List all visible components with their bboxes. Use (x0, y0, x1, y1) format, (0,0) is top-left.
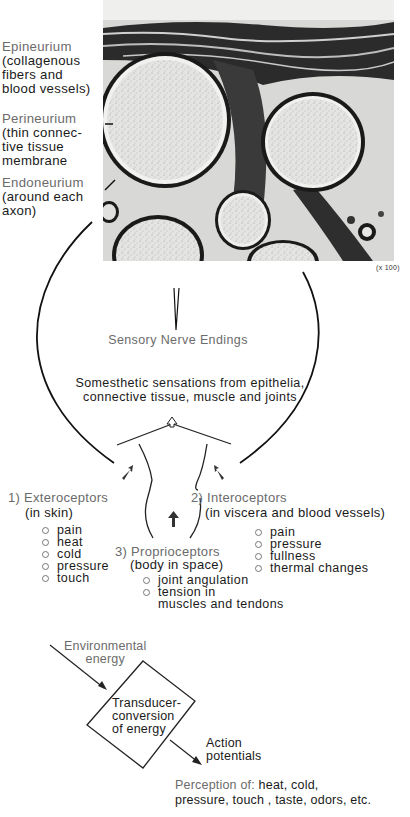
somesthetic-line-1: Somesthetic sensations from epithelia, (70, 376, 310, 390)
list-item: touch (42, 572, 109, 584)
exteroceptors-subtitle: (in skin) (8, 505, 109, 520)
interoceptors-title: 2) Interoceptors (191, 490, 385, 505)
transducer-label: Transducer- conversion of energy (112, 697, 181, 736)
perception-line-1: heat, cold, (259, 778, 319, 792)
transducer-line-3: of energy (112, 723, 181, 736)
list-item-text: muscles and tendons (158, 598, 284, 610)
arrow-proprioceptor-icon (168, 511, 179, 527)
right-arc (240, 272, 319, 463)
proprioceptors-list: joint angulation tension in muscles and … (115, 574, 284, 610)
arrow-exteroceptor-icon (122, 465, 133, 480)
nerve-ending-icon (174, 288, 179, 330)
output-line-2: potentials (206, 750, 262, 763)
output-arrowhead-icon (192, 756, 202, 765)
perception-line-2: pressure, touch , taste, odors, etc. (175, 793, 371, 808)
bullet-icon (143, 577, 150, 584)
perception-caption: Perception of: heat, cold, pressure, tou… (175, 778, 371, 808)
perception-prefix: Perception of: (175, 778, 259, 792)
list-item-text: touch (57, 572, 90, 584)
diagram-lines (0, 0, 410, 817)
bullet-icon (42, 527, 49, 534)
input-arrowhead-icon (98, 681, 107, 690)
body-outline-left (139, 444, 153, 538)
proprioceptors-subtitle: (body in space) (115, 557, 284, 572)
list-item: muscles and tendons (143, 598, 284, 610)
interoceptors-subtitle: (in viscera and blood vessels) (191, 505, 385, 520)
output-arrow-line (170, 740, 198, 762)
action-potentials-label: Action potentials (206, 737, 262, 763)
bullet-icon (42, 539, 49, 546)
bullet-icon (42, 563, 49, 570)
bullet-icon (143, 589, 150, 596)
bullet-icon (42, 575, 49, 582)
list-item-text: thermal changes (270, 562, 368, 574)
proprioceptors-group: 3) Proprioceptors (body in space) joint … (115, 544, 284, 610)
exteroceptors-list: pain heat cold pressure touch (8, 524, 109, 584)
somesthetic-caption: Somesthetic sensations from epithelia, c… (70, 376, 310, 404)
exteroceptors-title: 1) Exteroceptors (8, 490, 109, 505)
exteroceptors-group: 1) Exteroceptors (in skin) pain heat col… (8, 490, 109, 584)
sensory-nerve-endings-label: Sensory Nerve Endings (78, 333, 278, 347)
somesthetic-line-2: connective tissue, muscle and joints (70, 390, 310, 404)
bullet-icon (42, 551, 49, 558)
input-line-2: energy (64, 653, 147, 666)
arrow-interoceptor-icon (214, 465, 224, 480)
bullet-icon (255, 529, 262, 536)
environmental-energy-label: Environmental energy (64, 640, 147, 666)
